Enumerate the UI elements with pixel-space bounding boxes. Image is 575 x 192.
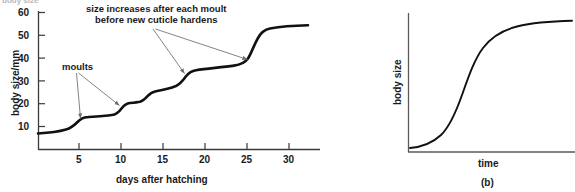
panel-b-label: (b) xyxy=(481,177,494,189)
panel-a-moults-annotation: moults xyxy=(62,62,93,73)
panel-a-xtick-20: 20 xyxy=(199,154,210,166)
figure-container: body size xyxy=(0,0,575,192)
panel-a-xaxis-title: days after hatching xyxy=(116,174,208,186)
panel-a-xtick-15: 15 xyxy=(157,154,168,166)
panel-b-curve xyxy=(410,21,572,148)
panel-b-xaxis-title: time xyxy=(478,158,499,170)
panel-a-axes xyxy=(39,11,321,150)
panel-a-xtick-25: 25 xyxy=(241,154,252,166)
panel-a-ytick-60: 60 xyxy=(18,7,29,19)
panel-b-yaxis-title: body size xyxy=(392,59,404,105)
panel-a-moult-arrows xyxy=(77,73,120,119)
panel-a-xtick-5: 5 xyxy=(76,154,82,166)
panel-a-ytick-10: 10 xyxy=(18,121,29,133)
panel-a-cuticle-annotation-line2: before new cuticle hardens xyxy=(95,15,217,26)
panel-a-xtick-10: 10 xyxy=(115,154,126,166)
growth-figure: body size xyxy=(0,0,575,192)
panel-a-ytick-50: 50 xyxy=(18,30,29,42)
panel-a-yaxis-title: body size/mm xyxy=(10,50,22,116)
panel-b-axes xyxy=(409,13,575,153)
panel-a-xtick-30: 30 xyxy=(283,154,294,166)
panel-a-curve xyxy=(38,25,308,133)
